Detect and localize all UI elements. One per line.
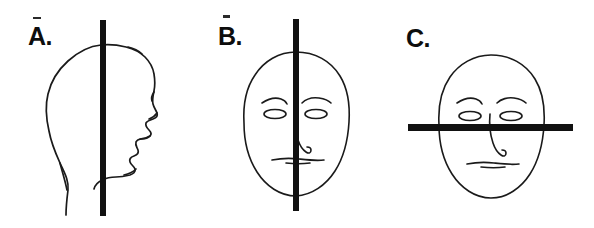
- mouth-lower-detail: [481, 167, 505, 168]
- vertical-plane-bar-b: [293, 19, 299, 211]
- right-eyebrow-path: [497, 98, 526, 103]
- panel-c: C.: [396, 0, 594, 228]
- right-eyebrow-path: [302, 98, 331, 103]
- right-eye-path: [305, 110, 327, 119]
- left-eyebrow-path: [262, 98, 287, 104]
- lip-detail: [140, 136, 150, 139]
- right-eye-path: [500, 112, 522, 121]
- left-eye-path: [459, 112, 481, 121]
- nose-path: [490, 114, 506, 156]
- panel-b: B.: [198, 0, 396, 228]
- anatomical-planes-figure: A. B.: [0, 0, 594, 228]
- vertical-plane-bar-a: [100, 20, 106, 216]
- mouth-path: [467, 162, 519, 164]
- panel-a: A.: [0, 0, 198, 228]
- left-eye-path: [264, 110, 286, 119]
- left-eyebrow-path: [457, 98, 482, 104]
- frontal-face-drawing-c: [396, 0, 594, 228]
- head-profile-drawing: [0, 0, 198, 228]
- horizontal-plane-bar-c: [408, 124, 573, 131]
